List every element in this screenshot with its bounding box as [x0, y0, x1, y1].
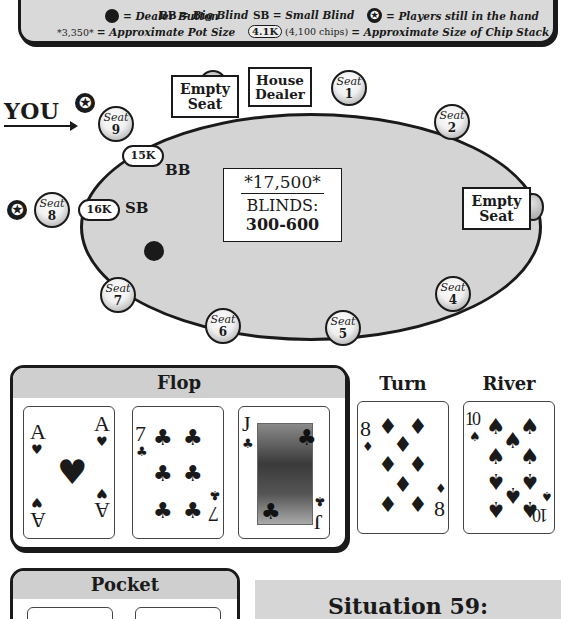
- situation-box: Situation 59:: [255, 580, 561, 619]
- flop-header: Flop: [13, 368, 345, 398]
- pot-amount: *17,500*: [241, 171, 323, 194]
- heart-icon: ♥: [31, 443, 43, 456]
- blinds-label: BLINDS:: [224, 196, 341, 216]
- pocket-panel: Pocket: [10, 568, 240, 619]
- club-icon: ♣: [209, 489, 221, 502]
- legend-players-in-hand: ✪ = Players still in the hand: [367, 8, 539, 23]
- club-icon: ♣: [314, 495, 326, 508]
- empty-seat-right: Empty Seat: [462, 187, 531, 230]
- flop-panel: Flop A ♥ A ♥ ♥ ♥ A ♥ A 7 ♣ ♣ ♣ ♣ ♣ ♣ ♣ ♣…: [10, 365, 348, 550]
- club-icon: ♣: [183, 427, 203, 449]
- legend-chip-stack: 4.1K (4,100 chips) = Approximate Size of…: [248, 25, 549, 38]
- house-dealer-box: House Dealer: [248, 67, 312, 107]
- dealer-button-icon: [105, 9, 119, 23]
- diamond-icon: ♦: [408, 494, 428, 516]
- pocket-card-2[interactable]: [135, 607, 221, 619]
- club-icon: ♣: [297, 427, 317, 449]
- big-blind-label: BB: [165, 161, 190, 179]
- you-label: YOU: [4, 98, 60, 124]
- river-card[interactable]: 10 ♠ ♠ ♠ ♠ ♠ ♠ ♠ ♠ ♠ ♠ ♠ ♠ 10: [463, 401, 555, 534]
- empty-seat-top: Empty Seat: [171, 75, 239, 118]
- legend-big-blind: BB = Big Blind: [159, 9, 248, 21]
- spade-icon: ♠: [486, 498, 506, 520]
- club-icon: ♣: [242, 437, 254, 450]
- small-blind-label: SB: [125, 199, 149, 217]
- star-icon: ✪: [367, 8, 382, 23]
- seat-2[interactable]: Seat 2: [434, 104, 470, 140]
- club-icon: ♣: [153, 463, 173, 485]
- spade-icon: ♠: [520, 446, 540, 468]
- diamond-icon: ♦: [378, 494, 398, 516]
- spade-icon: ♠: [520, 416, 540, 438]
- river-label: River: [463, 373, 555, 394]
- chip-stack-icon: 4.1K: [248, 25, 282, 38]
- heart-icon: ♥: [57, 455, 87, 489]
- diamond-icon: ♦: [362, 440, 374, 453]
- you-arrow-icon: [4, 125, 72, 127]
- turn-card[interactable]: 8 ♦ ♦ ♦ ♦ ♦ ♦ ♦ ♦ ♦ ♦ 8: [357, 401, 449, 534]
- seat-7[interactable]: Seat 7: [100, 277, 136, 313]
- spade-icon: ♠: [520, 470, 540, 492]
- legend-small-blind: SB = Small Blind: [253, 9, 354, 21]
- pot-box: *17,500* BLINDS: 300-600: [223, 168, 342, 242]
- heart-icon: ♥: [96, 435, 108, 448]
- pocket-card-1[interactable]: [27, 607, 113, 619]
- spade-icon: ♠: [469, 430, 481, 443]
- seat-4[interactable]: Seat 4: [435, 276, 471, 312]
- turn-label: Turn: [357, 373, 449, 394]
- club-icon: ♣: [183, 500, 203, 522]
- seat-5[interactable]: Seat 5: [325, 310, 361, 346]
- seat-9[interactable]: Seat 9: [98, 106, 134, 142]
- blinds-value: 300-600: [224, 216, 341, 234]
- club-icon: ♣: [136, 445, 148, 458]
- seat-8[interactable]: Seat 8: [34, 192, 70, 228]
- diamond-icon: ♦: [435, 482, 447, 495]
- seat-6[interactable]: Seat 6: [205, 308, 241, 344]
- chip-stack-seat9: 15K: [122, 145, 164, 167]
- spade-icon: ♠: [486, 446, 506, 468]
- legend-box: = Dealer Button BB = Big Blind SB = Smal…: [18, 0, 556, 44]
- flop-card-1[interactable]: A ♥ A ♥ ♥ ♥ A ♥ A: [23, 406, 115, 539]
- flop-card-2[interactable]: 7 ♣ ♣ ♣ ♣ ♣ ♣ ♣ ♣ 7: [132, 406, 224, 539]
- club-icon: ♣: [153, 500, 173, 522]
- club-icon: ♣: [183, 463, 203, 485]
- club-icon: ♣: [153, 427, 173, 449]
- flop-card-3[interactable]: J ♣ ♣ ♣ ♣ J: [238, 406, 330, 539]
- seat-1[interactable]: Seat 1: [331, 70, 367, 106]
- situation-title: Situation 59:: [255, 593, 561, 619]
- chip-stack-seat8: 16K: [78, 199, 120, 221]
- pocket-header: Pocket: [13, 571, 237, 599]
- legend-pot-size: *3,350* = Approximate Pot Size: [57, 26, 235, 38]
- player-in-hand-star-icon-seat9: ✪: [75, 93, 95, 113]
- dealer-button-icon: [144, 241, 164, 261]
- club-icon: ♣: [261, 501, 281, 523]
- spade-icon: ♠: [541, 490, 553, 503]
- player-in-hand-star-icon-seat8: ✪: [7, 200, 27, 220]
